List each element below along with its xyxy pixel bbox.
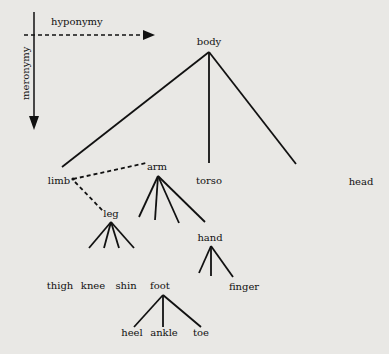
meronymy-axis: meronymy: [20, 12, 39, 130]
node-finger: finger: [229, 281, 259, 292]
node-foot: foot: [150, 280, 170, 291]
node-body: body: [197, 36, 222, 47]
node-labels: body limb arm torso head leg hand thigh …: [47, 36, 374, 338]
node-heel: heel: [121, 327, 142, 338]
hyponymy-axis: hyponymy: [24, 16, 155, 40]
node-toe: toe: [193, 327, 209, 338]
node-thigh: thigh: [47, 280, 74, 291]
right-arrow-icon: [143, 30, 155, 40]
meronymy-hyponymy-tree: meronymy hyponymy body limb arm to: [0, 0, 389, 354]
node-torso: torso: [196, 175, 222, 186]
hyponymy-edges: [71, 163, 146, 212]
node-knee: knee: [81, 280, 105, 291]
node-arm: arm: [147, 161, 168, 172]
node-ankle: ankle: [150, 327, 178, 338]
node-shin: shin: [115, 280, 137, 291]
meronymy-label: meronymy: [20, 46, 31, 100]
node-hand: hand: [197, 232, 223, 243]
node-leg: leg: [103, 208, 119, 219]
hyponymy-label: hyponymy: [51, 16, 103, 27]
node-limb: limb: [48, 175, 70, 186]
node-head: head: [349, 176, 374, 187]
down-arrow-icon: [29, 116, 39, 130]
